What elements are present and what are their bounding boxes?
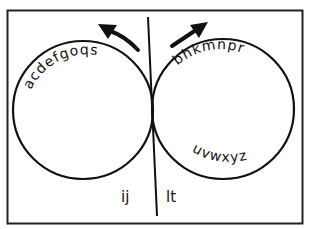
letter-sorting-diagram: acdefgoqs bhkmnpr uvwxyz ij lt (0, 0, 311, 229)
left-outside-label: ij (121, 188, 129, 206)
dividing-line (148, 17, 157, 216)
arrow-up-left-icon (98, 24, 138, 50)
right-circle-bottom-letters: uvwxyz (190, 140, 249, 165)
right-outside-label: lt (166, 188, 176, 206)
left-circle (13, 41, 153, 179)
left-circle-top-letters: acdefgoqs (19, 41, 99, 91)
